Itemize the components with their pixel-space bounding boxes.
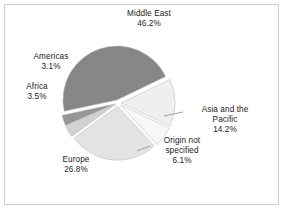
slice-label-asia-pacific-name-line2: Pacific (186, 115, 264, 125)
slice-label-americas-value: 3.1% (20, 62, 82, 72)
slice-label-europe-name: Europe (44, 155, 108, 165)
slice-label-asia-pacific-value: 14.2% (186, 125, 264, 135)
slice-label-origin-name-line1: Origin not (148, 136, 216, 146)
slice-label-middle-east-value: 46.2% (107, 19, 191, 29)
slice-label-americas-name: Americas (20, 52, 82, 62)
slice-label-origin-name-line2: specified (148, 146, 216, 156)
slice-label-americas: Americas 3.1% (20, 52, 82, 72)
slice-label-origin-value: 6.1% (148, 156, 216, 166)
slice-label-africa-name: Africa (8, 82, 66, 92)
slice-label-origin-not-specified: Origin not specified 6.1% (148, 136, 216, 167)
slice-label-africa: Africa 3.5% (8, 82, 66, 102)
slice-label-asia-pacific: Asia and the Pacific 14.2% (186, 105, 264, 136)
pie-chart-screenshot: Middle East 46.2%Asia and the Pacific 14… (0, 0, 285, 211)
slice-label-europe: Europe 26.8% (44, 155, 108, 175)
slice-label-europe-value: 26.8% (44, 165, 108, 175)
slice-label-middle-east-name: Middle East (107, 9, 191, 19)
slice-label-asia-pacific-name-line1: Asia and the (186, 105, 264, 115)
slice-label-africa-value: 3.5% (8, 92, 66, 102)
slice-label-middle-east: Middle East 46.2% (107, 9, 191, 29)
